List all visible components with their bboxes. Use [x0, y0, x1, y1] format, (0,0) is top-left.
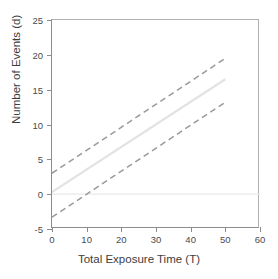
y-tick-label-20: 20: [32, 49, 43, 60]
x-tick-label-40: 40: [185, 234, 196, 245]
y-tick-label-minus5: -5: [35, 224, 43, 235]
y-axis-title: Number of Events (d): [10, 15, 22, 124]
y-tick-label-25: 25: [32, 15, 43, 26]
x-tick-label-60: 60: [255, 234, 266, 245]
lower-confidence-bound-line: [52, 102, 225, 217]
x-tick-label-20: 20: [116, 234, 127, 245]
x-tick-60: [260, 227, 261, 232]
plot-area: 25 20 15 10 5 0 -5 0 10 20 30 40 50 60: [51, 19, 259, 228]
x-tick-label-50: 50: [220, 234, 231, 245]
x-axis-title: Total Exposure Time (T): [0, 253, 278, 265]
upper-confidence-bound-line: [52, 58, 225, 173]
chart-figure: Number of Events (d) 25 20 15 10 5 0 -5 …: [0, 0, 278, 279]
y-tick-label-5: 5: [38, 154, 43, 165]
fitted-mean-line: [52, 79, 225, 192]
x-tick-label-0: 0: [49, 234, 54, 245]
y-axis-title-wrapper: Number of Events (d): [14, 0, 30, 279]
y-tick-label-0: 0: [38, 189, 43, 200]
x-tick-label-10: 10: [81, 234, 92, 245]
y-tick-label-15: 15: [32, 84, 43, 95]
y-tick-label-10: 10: [32, 119, 43, 130]
plot-lines: [52, 20, 260, 229]
x-tick-label-30: 30: [151, 234, 162, 245]
